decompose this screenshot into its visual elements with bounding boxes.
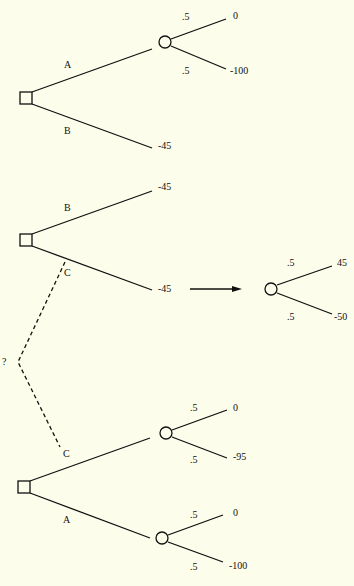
payoff-value: 0 [233,403,238,413]
payoff-value: 45 [337,258,347,268]
decision-node-2 [20,234,32,246]
payoff-value: -100 [230,66,248,76]
probability-label: .5 [190,562,198,572]
payoff-value: -45 [158,284,171,294]
branch-label: C [63,449,70,459]
decision-tree-diagram: A B .5 .5 0 -100 -45 B C -45 -45 .5 .5 4… [0,0,354,586]
chance-node-2 [265,283,277,295]
arrow-icon [232,286,242,292]
probability-label: .5 [287,258,295,268]
branch-label: B [64,203,71,213]
chance-node-3 [160,427,172,439]
probability-label: .5 [190,403,198,413]
chance-node-1 [159,36,171,48]
branch-label: C [64,268,71,278]
dashed-link [18,262,65,447]
probability-label: .5 [190,455,198,465]
probability-label: .5 [182,66,190,76]
payoff-value: 0 [233,11,238,21]
payoff-value: -45 [158,141,171,151]
payoff-value: -100 [229,561,247,571]
branch-label: A [64,60,71,70]
chance-node-4 [156,532,168,544]
payoff-value: -50 [334,312,347,322]
probability-label: .5 [287,312,295,322]
payoff-value: 0 [233,508,238,518]
decision-node-1 [20,92,32,104]
payoff-value: -45 [158,182,171,192]
payoff-value: -95 [233,452,246,462]
probability-label: .5 [182,12,190,22]
branch-label: A [63,515,70,525]
branch-label: B [64,126,71,136]
decision-node-3 [18,481,30,493]
tree-lines [0,0,354,586]
question-label: ? [2,357,6,367]
probability-label: .5 [190,510,198,520]
